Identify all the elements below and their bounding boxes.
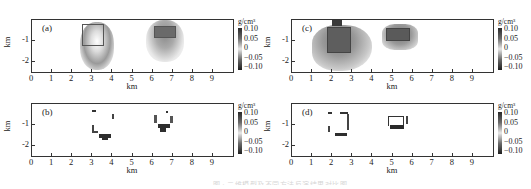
block-d2-bottom [390, 125, 404, 129]
colorbar-tick-label: 0.05 [244, 118, 258, 127]
colorbar-tick-label: −0.10 [504, 62, 523, 71]
x-tick-mark [412, 69, 413, 72]
x-tick-label: 8 [447, 73, 457, 83]
model-body-2-outline [154, 26, 176, 38]
colorbar-tick-label: 0.05 [244, 34, 258, 43]
x-axis-label: km [122, 165, 142, 175]
y-tick-mark [32, 124, 35, 125]
colorbar-b [238, 112, 242, 154]
x-tick-mark [311, 69, 312, 72]
x-tick-label: 3 [346, 73, 356, 83]
y-tick-label: -2 [15, 139, 29, 149]
x-tick-label: 3 [86, 157, 96, 167]
x-tick-label: 4 [366, 157, 376, 167]
colorbar-tick-label: 0.05 [504, 34, 518, 43]
x-tick-label: 6 [147, 157, 157, 167]
x-tick-label: 2 [326, 157, 336, 167]
plot-area-a: (a) [31, 19, 234, 73]
x-tick-label: 8 [187, 73, 197, 83]
colorbar-tick-label: −0.05 [504, 137, 523, 146]
panel-label-b: (b) [42, 107, 53, 117]
x-tick-label: 9 [207, 73, 217, 83]
colorbar-tick-label: 0.10 [504, 24, 518, 33]
x-tick-mark [152, 69, 153, 72]
colorbar-tick-label: 0.10 [504, 108, 518, 117]
x-tick-label: 0 [286, 157, 296, 167]
x-tick-mark [91, 69, 92, 72]
y-tick-mark [292, 61, 295, 62]
x-tick-label: 2 [66, 73, 76, 83]
model-body-2-outline [386, 28, 410, 41]
y-tick-label: -2 [15, 55, 29, 65]
x-tick-mark [132, 69, 133, 72]
x-tick-label: 1 [46, 73, 56, 83]
x-tick-mark [111, 153, 112, 156]
panel-label-d: (d) [302, 107, 313, 117]
x-tick-label: 9 [207, 157, 217, 167]
panel-label-a: (a) [42, 23, 52, 33]
y-tick-label: -2 [275, 55, 289, 65]
anomaly-top-block-1 [332, 20, 342, 26]
y-tick-mark [32, 145, 35, 146]
colorbar-tick-label: −0.05 [244, 53, 263, 62]
x-tick-mark [412, 153, 413, 156]
x-tick-label: 9 [467, 73, 477, 83]
x-tick-mark [452, 153, 453, 156]
plot-area-b: (b) [31, 103, 234, 157]
x-tick-label: 0 [286, 73, 296, 83]
colorbar-tick-label: −0.05 [504, 53, 523, 62]
x-tick-label: 6 [407, 157, 417, 167]
x-tick-mark [71, 69, 72, 72]
colorbar-tick-label: 0.10 [244, 108, 258, 117]
x-tick-label: 1 [306, 73, 316, 83]
y-axis-label: km [262, 121, 272, 132]
x-tick-label: 1 [46, 157, 56, 167]
block-d1-right [347, 114, 349, 130]
x-tick-label: 2 [326, 73, 336, 83]
x-tick-mark [351, 153, 352, 156]
y-tick-label: -1 [15, 34, 29, 44]
x-tick-mark [371, 69, 372, 72]
colorbar-tick-label: −0.10 [244, 146, 263, 155]
colorbar-tick-label: 0 [504, 43, 508, 52]
x-tick-mark [331, 153, 332, 156]
x-tick-label: 3 [86, 73, 96, 83]
colorbar-tick-label: −0.10 [244, 62, 263, 71]
y-tick-mark [292, 145, 295, 146]
x-tick-mark [392, 153, 393, 156]
x-tick-mark [371, 153, 372, 156]
y-tick-mark [292, 124, 295, 125]
x-tick-mark [311, 153, 312, 156]
x-tick-mark [152, 153, 153, 156]
x-axis-label: km [382, 81, 402, 91]
x-tick-label: 8 [187, 157, 197, 167]
x-tick-label: 8 [447, 157, 457, 167]
x-tick-mark [432, 153, 433, 156]
x-tick-label: 6 [407, 73, 417, 83]
colorbar-tick-label: 0.10 [244, 24, 258, 33]
x-tick-label: 9 [467, 157, 477, 167]
x-tick-label: 7 [427, 73, 437, 83]
x-tick-mark [132, 153, 133, 156]
plot-area-c: (c) [291, 19, 494, 73]
plot-area-d: (d) [291, 103, 494, 157]
x-tick-mark [111, 69, 112, 72]
x-tick-mark [172, 69, 173, 72]
block-d2-right [406, 116, 408, 124]
block-b1-top-left [92, 110, 96, 112]
colorbar-tick-label: 0 [244, 127, 248, 136]
block-b2-dot [166, 111, 168, 113]
x-tick-label: 4 [366, 73, 376, 83]
y-tick-label: -1 [15, 118, 29, 128]
x-tick-label: 0 [26, 157, 36, 167]
x-tick-mark [351, 69, 352, 72]
block-b2-bottom2 [160, 128, 166, 132]
block-d1-top-left [328, 112, 332, 114]
x-tick-mark [331, 69, 332, 72]
x-tick-label: 4 [106, 73, 116, 83]
y-axis-label: km [2, 121, 12, 132]
y-axis-label: km [2, 37, 12, 48]
colorbar-a [238, 28, 242, 70]
x-tick-mark [192, 69, 193, 72]
y-tick-mark [32, 61, 35, 62]
